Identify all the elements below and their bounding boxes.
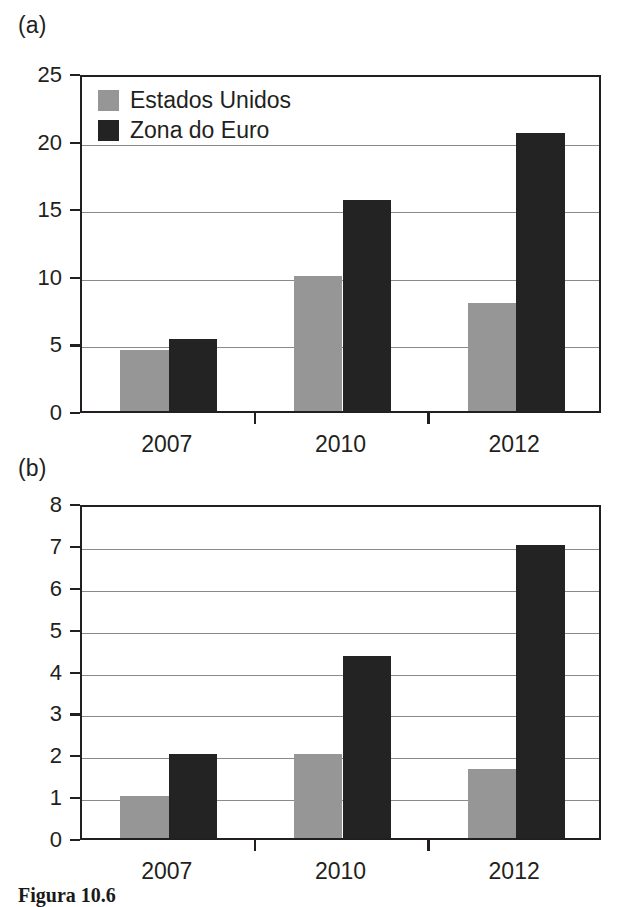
x-axis-tick: [427, 413, 429, 424]
bar-estados-unidos-2012: [468, 769, 517, 838]
bar-zona-do-euro-2007: [169, 339, 218, 411]
y-axis-label: 0: [2, 402, 62, 424]
x-axis-tick: [254, 840, 256, 851]
y-axis-tick: [70, 839, 80, 841]
y-axis-label: 2: [2, 745, 62, 767]
y-axis-tick: [70, 504, 80, 506]
bar-estados-unidos-2007: [120, 350, 169, 411]
y-axis-label: 1: [2, 787, 62, 809]
y-axis-label: 4: [2, 662, 62, 684]
x-axis-label: 2012: [454, 433, 574, 456]
y-axis-label: 15: [2, 199, 62, 221]
chart-a-legend: Estados UnidosZona do Euro: [98, 85, 291, 145]
y-axis-tick: [70, 344, 80, 346]
x-axis-label: 2012: [454, 860, 574, 883]
x-axis-label: 2007: [107, 860, 227, 883]
gray-square-icon: [98, 90, 119, 111]
y-axis-label: 7: [2, 536, 62, 558]
legend-item-label: Zona do Euro: [130, 119, 269, 142]
y-axis-tick: [70, 755, 80, 757]
bar-zona-do-euro-2010: [343, 200, 392, 411]
bar-zona-do-euro-2010: [343, 656, 392, 838]
bar-estados-unidos-2010: [294, 276, 343, 411]
y-axis-tick: [70, 672, 80, 674]
figure-caption: Figura 10.6: [18, 884, 116, 907]
y-axis-label: 20: [2, 132, 62, 154]
y-axis-label: 10: [2, 267, 62, 289]
x-axis-label: 2010: [281, 860, 401, 883]
y-axis-tick: [70, 630, 80, 632]
y-axis-label: 3: [2, 703, 62, 725]
bar-estados-unidos-2010: [294, 754, 343, 838]
bar-zona-do-euro-2012: [516, 545, 565, 838]
y-axis-tick: [70, 797, 80, 799]
chart-a-plot-area: Estados UnidosZona do Euro: [80, 75, 601, 413]
x-axis-label: 2007: [107, 433, 227, 456]
x-axis-tick: [427, 840, 429, 851]
y-axis-tick: [70, 74, 80, 76]
bar-zona-do-euro-2012: [516, 133, 565, 412]
y-axis-tick: [70, 546, 80, 548]
y-axis-label: 5: [2, 334, 62, 356]
legend-item-estados-unidos: Estados Unidos: [98, 85, 291, 115]
y-axis-tick: [70, 209, 80, 211]
legend-item-zona-do-euro: Zona do Euro: [98, 115, 291, 145]
y-axis-tick: [70, 588, 80, 590]
y-axis-tick: [70, 277, 80, 279]
panel-b: (b) 012345678200720102012: [0, 455, 624, 903]
panel-a: (a) Estados UnidosZona do Euro 051015202…: [0, 0, 624, 455]
y-axis-label: 5: [2, 620, 62, 642]
y-axis-tick: [70, 713, 80, 715]
y-axis-label: 8: [2, 494, 62, 516]
y-axis-label: 25: [2, 64, 62, 86]
chart-b-plot-area: [80, 505, 601, 840]
y-axis-tick: [70, 142, 80, 144]
panel-b-label: (b): [18, 455, 47, 482]
bar-estados-unidos-2007: [120, 796, 169, 838]
bar-estados-unidos-2012: [468, 303, 517, 411]
y-axis-label: 6: [2, 578, 62, 600]
x-axis-label: 2010: [281, 433, 401, 456]
bar-zona-do-euro-2007: [169, 754, 218, 838]
x-axis-tick: [254, 413, 256, 424]
y-axis-label: 0: [2, 829, 62, 851]
y-axis-tick: [70, 412, 80, 414]
legend-item-label: Estados Unidos: [130, 89, 291, 112]
black-square-icon: [98, 120, 119, 141]
panel-a-label: (a): [18, 12, 47, 39]
